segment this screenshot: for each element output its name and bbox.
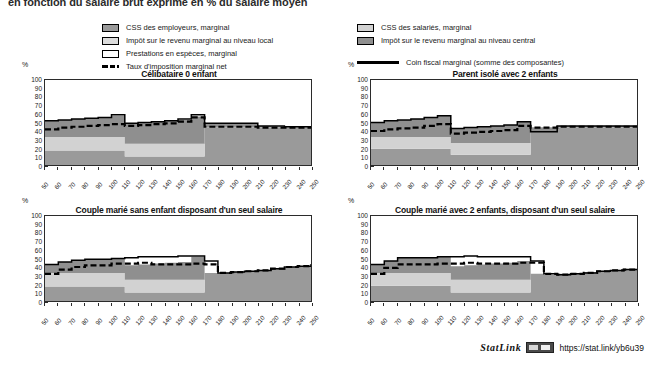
- x-axis-tick-label: 130: [147, 178, 159, 190]
- y-axis-tick-label: 10: [35, 290, 42, 297]
- y-axis-tick-label: 10: [35, 154, 42, 161]
- x-axis-tick-label: 220: [268, 314, 280, 326]
- legend-spacer: [357, 48, 564, 57]
- y-axis-tick-label: 20: [361, 145, 368, 152]
- x-axis-tick-mark: [151, 303, 152, 306]
- x-axis-tick-mark: [71, 167, 72, 170]
- plot-area-celibataire-0-enfant: [44, 79, 312, 166]
- x-axis-tick-mark: [111, 167, 112, 170]
- chart-panel-grid: %Célibataire 0 enfant0102030405060708090…: [0, 64, 652, 336]
- x-axis-tick-mark: [299, 167, 300, 170]
- legend-item-impot-local: Impôt sur le revenu marginal au niveau l…: [102, 35, 273, 46]
- x-axis-tick-mark: [410, 167, 411, 170]
- y-axis-tick-label: 30: [35, 136, 42, 143]
- x-axis-tick-label: 50: [40, 181, 50, 191]
- x-axis-tick-label: 240: [620, 178, 632, 190]
- x-axis-tick-mark: [491, 167, 492, 170]
- x-axis-tick-mark: [111, 303, 112, 306]
- x-axis-tick-mark: [44, 167, 45, 170]
- legend-swatch-css-salaries: [357, 24, 374, 32]
- statlink-badge-icon: [526, 342, 554, 353]
- y-axis-tick-label: 30: [35, 272, 42, 279]
- plot-frame: [370, 79, 638, 166]
- x-axis-tick-label: 150: [500, 314, 512, 326]
- figure-root: en fonction du salaire brut exprimé en %…: [0, 0, 652, 367]
- x-axis-tick-label: 60: [53, 317, 63, 327]
- x-axis-tick-mark: [584, 303, 585, 306]
- y-axis: 0102030405060708090100: [344, 210, 368, 307]
- legend-swatch-prestations: [102, 50, 119, 58]
- y-axis-tick-label: 80: [35, 229, 42, 236]
- x-axis-tick-mark: [477, 303, 478, 306]
- x-axis-tick-label: 170: [201, 178, 213, 190]
- x-axis-tick-label: 170: [527, 178, 539, 190]
- x-axis-tick-label: 150: [174, 314, 186, 326]
- y-axis-unit-label: %: [348, 61, 354, 68]
- figure-title: en fonction du salaire brut exprimé en %…: [8, 0, 307, 8]
- chart-title-parent-isole-2-enfants: Parent isolé avec 2 enfants: [362, 69, 648, 79]
- x-axis-tick-label: 50: [366, 181, 376, 191]
- x-axis-tick-label: 150: [174, 178, 186, 190]
- statlink-url[interactable]: https://stat.link/yb6u39: [559, 343, 644, 353]
- y-axis-unit-label: %: [348, 197, 354, 204]
- x-axis-tick-label: 210: [580, 178, 592, 190]
- x-axis-tick-label: 190: [553, 314, 565, 326]
- x-axis-tick-label: 140: [486, 314, 498, 326]
- x-axis-tick-label: 250: [308, 314, 320, 326]
- y-axis-tick-label: 70: [35, 238, 42, 245]
- x-axis-tick-label: 110: [446, 314, 458, 326]
- x-axis-tick-mark: [531, 303, 532, 306]
- x-axis-tick-label: 80: [406, 181, 416, 191]
- x-axis-tick-mark: [437, 167, 438, 170]
- y-axis-tick-label: 40: [361, 264, 368, 271]
- x-axis-tick-mark: [245, 167, 246, 170]
- x-axis-tick-label: 250: [634, 178, 646, 190]
- plot-area-parent-isole-2-enfants: [370, 79, 638, 166]
- x-axis-tick-label: 100: [107, 178, 119, 190]
- x-axis-tick-label: 220: [268, 178, 280, 190]
- x-axis: 5060708090100110120130140150160170180190…: [370, 303, 638, 333]
- y-axis-tick-label: 20: [35, 281, 42, 288]
- x-axis-tick-mark: [370, 303, 371, 306]
- chart-panel-celibataire-0-enfant: %Célibataire 0 enfant0102030405060708090…: [0, 64, 326, 200]
- x-axis-tick-label: 80: [80, 181, 90, 191]
- x-axis-tick-label: 100: [107, 314, 119, 326]
- x-axis-tick-mark: [205, 303, 206, 306]
- y-axis-tick-label: 50: [35, 255, 42, 262]
- x-axis-tick-label: 230: [607, 314, 619, 326]
- x-axis-tick-mark: [611, 303, 612, 306]
- y-axis-tick-label: 60: [361, 246, 368, 253]
- x-axis-tick-label: 100: [433, 178, 445, 190]
- x-axis-tick-label: 160: [513, 178, 525, 190]
- chart-title-celibataire-0-enfant: Célibataire 0 enfant: [36, 69, 322, 79]
- x-axis-tick-mark: [245, 303, 246, 306]
- x-axis-tick-label: 200: [241, 314, 253, 326]
- x-axis-tick-label: 200: [241, 178, 253, 190]
- x-axis-tick-mark: [424, 167, 425, 170]
- chart-legend: CSS des employeurs, marginal Impôt sur l…: [0, 22, 652, 64]
- y-axis-tick-label: 40: [35, 264, 42, 271]
- x-axis-tick-mark: [258, 167, 259, 170]
- legend-item-css-employeurs: CSS des employeurs, marginal: [102, 22, 273, 33]
- y-axis-tick-label: 80: [361, 229, 368, 236]
- x-axis-tick-label: 110: [120, 178, 132, 190]
- x-axis-tick-mark: [517, 303, 518, 306]
- y-axis-tick-label: 50: [361, 255, 368, 262]
- x-axis-tick-label: 130: [473, 178, 485, 190]
- y-axis-tick-label: 80: [35, 93, 42, 100]
- x-axis-tick-mark: [84, 303, 85, 306]
- x-axis-tick-label: 70: [67, 317, 77, 327]
- y-axis-tick-label: 0: [364, 299, 368, 306]
- legend-label: CSS des salariés, marginal: [381, 24, 471, 32]
- x-axis-tick-label: 90: [419, 181, 429, 191]
- y-axis-tick-label: 60: [35, 246, 42, 253]
- legend-column-right: CSS des salariés, marginal Impôt sur le …: [357, 22, 564, 70]
- x-axis-tick-mark: [178, 303, 179, 306]
- x-axis-tick-label: 160: [187, 314, 199, 326]
- y-axis-tick-label: 90: [361, 220, 368, 227]
- x-axis-tick-label: 180: [540, 178, 552, 190]
- x-axis-tick-mark: [57, 167, 58, 170]
- x-axis-tick-mark: [625, 167, 626, 170]
- x-axis-tick-mark: [491, 303, 492, 306]
- y-axis-tick-label: 20: [361, 281, 368, 288]
